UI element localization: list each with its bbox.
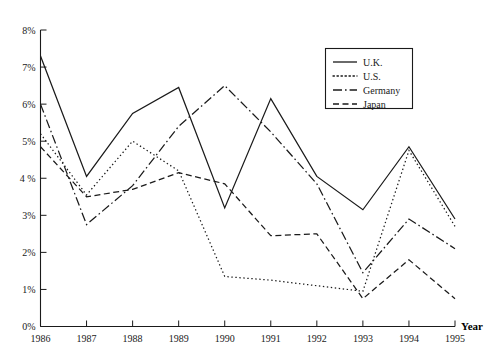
- x-tick-label: 1995: [445, 333, 465, 344]
- x-tick-label: 1991: [261, 333, 281, 344]
- x-tick-label: 1986: [31, 333, 51, 344]
- y-tick-label: 7%: [22, 62, 35, 73]
- series-line-germany: [41, 86, 456, 273]
- x-tick-label: 1994: [399, 333, 419, 344]
- x-axis-ticks: 1986198719881989199019911992199319941995: [31, 321, 466, 344]
- chart-plot-area: 0%1%2%3%4 %5%6%7%8% 19861987198819891990…: [0, 0, 499, 364]
- x-tick-label: 1988: [123, 333, 143, 344]
- y-tick-label: 4 %: [20, 173, 36, 184]
- y-tick-label: 0%: [22, 321, 35, 332]
- y-tick-label: 6%: [22, 99, 35, 110]
- line-chart: 0%1%2%3%4 %5%6%7%8% 19861987198819891990…: [0, 0, 499, 364]
- y-tick-label: 3%: [22, 210, 35, 221]
- y-axis-ticks: 0%1%2%3%4 %5%6%7%8%: [20, 25, 47, 333]
- legend-label-u-k: U.K.: [363, 57, 382, 68]
- x-tick-label: 1987: [77, 333, 97, 344]
- legend-label-u-s: U.S.: [363, 71, 381, 82]
- x-tick-label: 1992: [307, 333, 327, 344]
- y-tick-label: 1%: [22, 284, 35, 295]
- series-line-u-s: [41, 134, 456, 292]
- y-tick-label: 5%: [22, 136, 35, 147]
- legend-label-japan: Japan: [363, 99, 386, 110]
- legend-label-germany: Germany: [363, 85, 400, 96]
- y-tick-label: 8%: [22, 25, 35, 36]
- x-tick-label: 1989: [169, 333, 189, 344]
- x-tick-label: 1993: [353, 333, 373, 344]
- y-tick-label: 2%: [22, 247, 35, 258]
- x-axis-title: Year: [461, 320, 483, 332]
- chart-legend: U.K.U.S.GermanyJapan: [326, 49, 413, 110]
- x-tick-label: 1990: [215, 333, 235, 344]
